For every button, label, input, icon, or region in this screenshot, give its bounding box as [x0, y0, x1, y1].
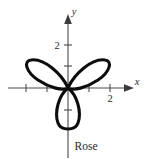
figure-canvas: x y 2 2 Rose [0, 0, 148, 159]
rose-petal-upper-left [27, 60, 68, 89]
y-tick-label-2: 2 [54, 40, 59, 51]
y-axis-label: y [71, 6, 77, 17]
y-axis-arrowhead [64, 14, 72, 24]
x-axis-label: x [134, 76, 140, 87]
x-tick-label-2: 2 [107, 93, 112, 104]
rose-petal-upper-right [68, 60, 109, 89]
rose-curve-figure: x y 2 2 Rose [0, 0, 148, 159]
x-axis-arrowhead [124, 84, 134, 92]
figure-caption: Rose [75, 140, 98, 152]
